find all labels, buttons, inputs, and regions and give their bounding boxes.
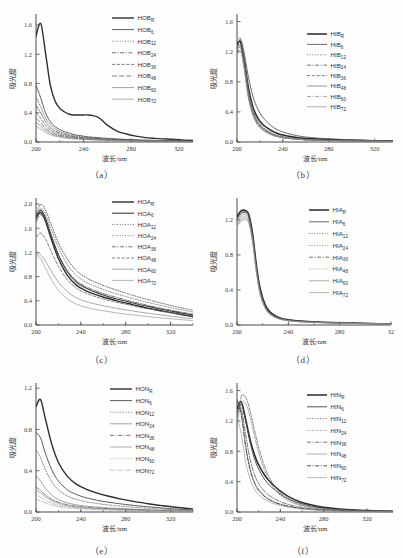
y-tick-label: 1.6 bbox=[24, 21, 32, 28]
x-axis-title: 波长/nm bbox=[303, 154, 328, 163]
chart-f: 2002402803200.00.40.81.21.6波长/nm吸光度HINRH… bbox=[203, 367, 403, 558]
legend-label-subscript: R bbox=[151, 18, 155, 23]
panel-grid: 2002402803200.00.40.81.21.6波长/nm吸光度HOBRH… bbox=[0, 0, 403, 558]
legend-label-HOA-12: HOA12 bbox=[138, 221, 157, 230]
series-line-HON-12 bbox=[36, 450, 193, 510]
y-tick-label: 1.6 bbox=[225, 18, 233, 25]
legend-label-HIB-60: HIB60 bbox=[331, 93, 347, 102]
legend-label-subscript: R bbox=[151, 202, 155, 207]
panel-e: 2002402803200.00.40.81.2波长/nm吸光度HONRHON6… bbox=[0, 367, 203, 558]
series-line-HIA-48 bbox=[237, 216, 391, 324]
y-tick-label: 0.8 bbox=[24, 273, 32, 280]
legend-label-HIN-60: HIN60 bbox=[331, 462, 347, 471]
legend-label-subscript: 48 bbox=[151, 258, 157, 263]
y-tick-label: 1.6 bbox=[24, 225, 32, 232]
x-tick-label: 280 bbox=[121, 328, 131, 335]
y-tick-label: 0.0 bbox=[24, 508, 32, 515]
x-tick-label: 320 bbox=[174, 145, 184, 152]
series-line-HON-R bbox=[36, 399, 193, 509]
legend-label-subscript: 12 bbox=[341, 419, 347, 424]
series-line-HON-24 bbox=[36, 476, 193, 511]
x-tick-label: 240 bbox=[79, 145, 89, 152]
legend-f: HINRHIN6HIN12HIN24HIN36HIN48HIN60HIN72 bbox=[307, 391, 347, 482]
legend-label-subscript: 48 bbox=[341, 454, 347, 459]
legend-label-HOB-60: HOB60 bbox=[138, 84, 157, 93]
legend-label-HON-36: HON36 bbox=[136, 432, 155, 441]
legend-label-HOB-R: HOBR bbox=[138, 14, 155, 23]
legend-label-subscript: 60 bbox=[341, 466, 347, 471]
chart-b: 2002402803200.00.40.81.21.6波长/nm吸光度HIBRH… bbox=[203, 0, 403, 182]
series-line-HIA-60 bbox=[237, 218, 391, 324]
y-axis-title: 吸光度 bbox=[209, 68, 218, 89]
y-tick-label: 0.8 bbox=[225, 448, 233, 455]
legend-label-HIA-24: HIA24 bbox=[333, 242, 349, 251]
legend-label-HIB-6: HIB6 bbox=[331, 41, 344, 50]
series-line-HOA-60 bbox=[36, 254, 193, 319]
y-tick-label: 0.4 bbox=[225, 108, 234, 115]
plot-a: 2002402803200.00.40.81.21.6波长/nm吸光度HOBRH… bbox=[0, 0, 203, 182]
x-tick-label: 280 bbox=[324, 145, 334, 152]
x-tick-label: 320 bbox=[370, 145, 380, 152]
plot-c: 2002402803200.00.40.81.21.62.0波长/nm吸光度HO… bbox=[0, 182, 203, 367]
legend-label-subscript: R bbox=[149, 389, 153, 394]
legend-label-HIN-72: HIN72 bbox=[331, 474, 347, 483]
x-tick-label: 280 bbox=[319, 515, 329, 522]
legend-label-HIN-R: HINR bbox=[331, 391, 346, 400]
legend-label-HIA-72: HIA72 bbox=[333, 289, 349, 298]
y-tick-label: 0.4 bbox=[24, 467, 33, 474]
series-line-HOA-R bbox=[36, 213, 193, 317]
x-tick-label: 200 bbox=[232, 515, 242, 522]
legend-label-HIB-R: HIBR bbox=[331, 30, 345, 39]
y-tick-label: 0.8 bbox=[225, 251, 233, 258]
series-line-HIA-24 bbox=[237, 215, 391, 324]
legend-label-HOB-6: HOB6 bbox=[138, 26, 154, 35]
legend-label-subscript: 60 bbox=[149, 459, 155, 464]
y-tick-label: 1.2 bbox=[24, 384, 32, 391]
panel-a: 2002402803200.00.40.81.21.6波长/nm吸光度HOBRH… bbox=[0, 0, 203, 182]
x-tick-label: 200 bbox=[232, 145, 242, 152]
x-tick-label: 280 bbox=[335, 328, 345, 335]
series-line-HOB-12 bbox=[36, 97, 193, 141]
series-line-HIB-60 bbox=[237, 46, 393, 142]
chart-c: 2002402803200.00.40.81.21.62.0波长/nm吸光度HO… bbox=[0, 182, 203, 367]
legend-label-HOB-72: HOB72 bbox=[138, 96, 157, 105]
legend-label-subscript: 72 bbox=[149, 470, 155, 475]
legend-label-subscript: 24 bbox=[151, 236, 157, 241]
legend-label-subscript: 6 bbox=[149, 401, 152, 406]
legend-label-HON-48: HON48 bbox=[136, 443, 155, 452]
y-tick-label: 0.0 bbox=[225, 321, 233, 328]
y-tick-label: 1.6 bbox=[225, 387, 233, 394]
legend-label-HON-60: HON60 bbox=[136, 455, 155, 464]
panel-c: 2002402803200.00.40.81.21.62.0波长/nm吸光度HO… bbox=[0, 182, 203, 367]
panel-caption-d: （d） bbox=[203, 353, 403, 366]
legend-label-subscript: 12 bbox=[149, 412, 155, 417]
y-axis-title: 吸光度 bbox=[209, 251, 218, 272]
legend-d: HIARHIA6HIA12HIA24HIA36HIA48HIA60HIA72 bbox=[309, 206, 348, 297]
curve-group bbox=[36, 204, 193, 320]
legend-label-HOA-72: HOA72 bbox=[138, 277, 157, 286]
curve-group bbox=[237, 37, 393, 141]
legend-label-subscript: 6 bbox=[151, 213, 154, 218]
series-line-HIB-48 bbox=[237, 37, 393, 141]
legend-label-HOA-36: HOA36 bbox=[138, 243, 157, 252]
series-line-HIN-R bbox=[237, 402, 393, 512]
x-tick-label: 200 bbox=[31, 328, 41, 335]
series-line-HIA-12 bbox=[237, 213, 391, 324]
legend-label-subscript: 36 bbox=[341, 76, 347, 81]
legend-label-subscript: 72 bbox=[151, 281, 157, 286]
panel-f: 2002402803200.00.40.81.21.6波长/nm吸光度HINRH… bbox=[203, 367, 403, 558]
series-line-HOB-R bbox=[36, 23, 193, 140]
panel-caption-a: （a） bbox=[0, 168, 203, 181]
legend-label-subscript: 24 bbox=[151, 53, 157, 58]
legend-label-HIA-6: HIA6 bbox=[333, 218, 346, 227]
legend-label-subscript: R bbox=[341, 34, 345, 39]
legend-label-HOB-36: HOB36 bbox=[138, 61, 157, 70]
y-tick-label: 0.0 bbox=[225, 138, 233, 145]
series-line-HIA-R bbox=[237, 210, 391, 324]
legend-label-HON-R: HONR bbox=[136, 385, 154, 394]
legend-label-HOA-60: HOA60 bbox=[138, 266, 157, 275]
chart-a: 2002402803200.00.40.81.21.6波长/nm吸光度HOBRH… bbox=[0, 0, 203, 182]
legend-label-HIB-36: HIB36 bbox=[331, 72, 347, 81]
legend-label-HIB-12: HIB12 bbox=[331, 51, 347, 60]
y-tick-label: 1.2 bbox=[24, 249, 32, 256]
